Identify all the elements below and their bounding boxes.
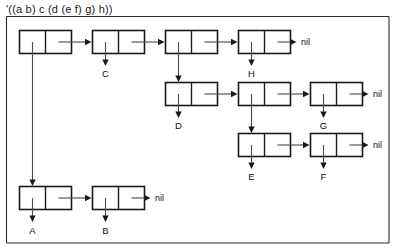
atom-label-g: G: [320, 120, 327, 131]
atom-label-d: D: [175, 120, 182, 131]
atom-label-h: H: [248, 68, 255, 79]
row-middle: D: [166, 83, 383, 134]
cons-cell-diagram-page: '((a b) c (d (e f) g) h)): [0, 0, 396, 251]
nil-label-top-row: nil: [301, 37, 310, 47]
row-lower: E nil F: [239, 134, 383, 183]
atom-label-c: C: [102, 68, 109, 79]
nil-label-middle-row: nil: [373, 89, 382, 99]
row-bottom: A nil B: [20, 187, 165, 237]
diagram-surface: C: [0, 0, 396, 251]
atom-label-a: A: [29, 225, 36, 236]
pointer-top1-car-down: [29, 42, 35, 186]
atom-label-b: B: [102, 225, 108, 236]
nil-label-lower-row: nil: [373, 140, 382, 150]
atom-label-f: F: [321, 171, 327, 182]
nil-label-bottom-row: nil: [155, 193, 164, 203]
row-top: C: [20, 31, 311, 187]
atom-label-e: E: [248, 171, 254, 182]
